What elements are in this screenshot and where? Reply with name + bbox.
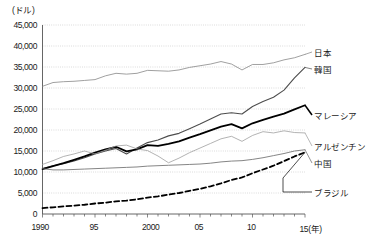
series-label-0: 日本 (314, 46, 331, 58)
series-label-3: アルゼンチン (314, 140, 366, 152)
series-line-2 (43, 105, 306, 169)
series-line-3 (43, 131, 306, 165)
series-line-1 (43, 67, 306, 168)
data-series-layer (43, 54, 306, 208)
leader-line-2 (305, 105, 312, 115)
leader-line-1 (305, 67, 312, 69)
x-axis-tick-marks (43, 214, 306, 218)
series-label-4: 中国 (314, 157, 331, 169)
leader-line-0 (305, 52, 312, 54)
series-line-4 (43, 150, 306, 170)
series-label-1: 韓国 (314, 63, 331, 75)
leader-line-3 (305, 133, 312, 146)
series-line-0 (43, 54, 306, 86)
series-label-5: ブラジル (314, 186, 348, 198)
label-leader-lines (283, 52, 312, 192)
leader-line-4 (305, 150, 312, 163)
series-label-2: マレーシア (314, 109, 357, 121)
